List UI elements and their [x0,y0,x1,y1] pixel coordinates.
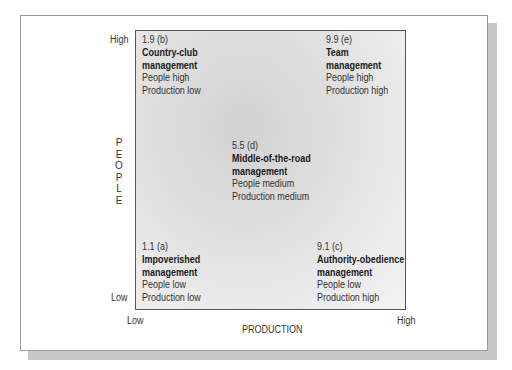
cell-name: Team [326,47,388,60]
cell-impoverished: 1.1 (a) Impoverished management People l… [142,241,201,305]
cell-people: People medium [232,178,311,191]
cell-authority-obedience: 9.1 (c) Authority-obedience management P… [317,241,404,305]
y-axis-letter: P [113,137,125,149]
cell-score: 9.1 (c) [317,241,404,254]
x-axis-low-label: Low [127,315,144,327]
y-axis-letter: E [113,195,125,207]
y-axis-title: P E O P L E [113,137,125,206]
cell-name: Middle-of-the-road [232,153,311,166]
cell-name: Impoverished [142,254,201,267]
cell-team: 9.9 (e) Team management People high Prod… [326,34,388,98]
cell-name: management [142,267,201,280]
y-axis-letter: E [113,149,125,161]
cell-production: Production high [317,292,404,305]
cell-production: Production medium [232,191,311,204]
cell-score: 9.9 (e) [326,34,388,47]
cell-country-club: 1.9 (b) Country-club management People h… [142,34,201,98]
cell-name: Authority-obedience [317,254,404,267]
cell-production: Production high [326,85,388,98]
y-axis-high-label: High [110,34,129,46]
y-axis-letter: O [113,160,125,172]
x-axis-title: PRODUCTION [242,324,303,336]
cell-name: management [326,60,388,73]
cell-score: 1.1 (a) [142,241,201,254]
cell-middle-of-the-road: 5.5 (d) Middle-of-the-road management Pe… [232,140,311,204]
cell-name: management [142,60,201,73]
cell-score: 5.5 (d) [232,140,311,153]
cell-people: People low [317,279,404,292]
cell-name: management [317,267,404,280]
x-axis-high-label: High [397,315,416,327]
y-axis-low-label: Low [111,292,128,304]
cell-score: 1.9 (b) [142,34,201,47]
y-axis-letter: L [113,183,125,195]
y-axis-letter: P [113,172,125,184]
cell-people: People high [326,72,388,85]
cell-production: Production low [142,85,201,98]
cell-name: Country-club [142,47,201,60]
cell-people: People high [142,72,201,85]
cell-name: management [232,166,311,179]
cell-production: Production low [142,292,201,305]
cell-people: People low [142,279,201,292]
